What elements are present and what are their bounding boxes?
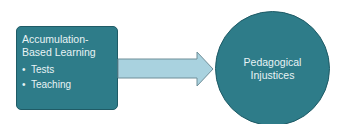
bullet-icon: • [22,62,31,77]
bullet-list: •Tests •Teaching [22,62,112,92]
target-circle-pedagogical-injustices: Pedagogical Injustices [215,11,330,124]
bullet-item-teaching: •Teaching [22,77,112,92]
circle-line-2: Injustices [251,69,295,82]
source-box-accumulation-based-learning: Accumulation- Based Learning •Tests •Tea… [16,26,118,110]
title-line-1: Accumulation- [22,33,112,46]
source-box-title: Accumulation- Based Learning [22,33,112,59]
bullet-item-tests: •Tests [22,62,112,77]
bullet-label: Teaching [31,79,71,90]
circle-line-1: Pedagogical [244,56,302,69]
bullet-icon: • [22,77,31,92]
bullet-label: Tests [31,64,54,75]
right-arrow-icon [117,50,215,88]
title-line-2: Based Learning [22,46,112,59]
